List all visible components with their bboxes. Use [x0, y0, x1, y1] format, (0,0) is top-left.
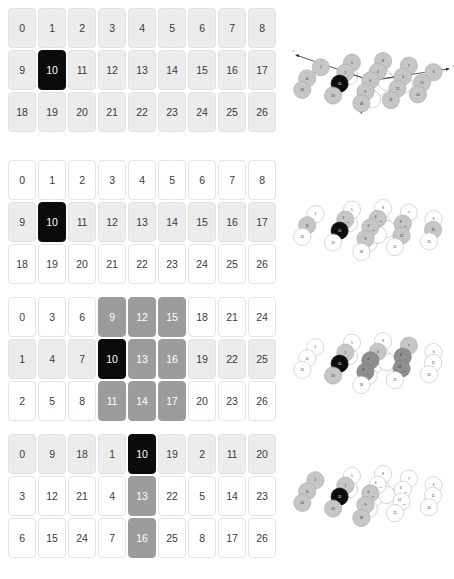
graph-node[interactable]: 24: [420, 366, 437, 383]
grid-cell[interactable]: 17: [158, 381, 186, 421]
grid-cell[interactable]: 24: [248, 297, 276, 337]
grid-cell[interactable]: 24: [188, 92, 216, 132]
graph-node[interactable]: 2: [312, 59, 329, 76]
grid-cell[interactable]: 25: [218, 92, 246, 132]
grid-cell[interactable]: 16: [128, 518, 156, 558]
grid-cell[interactable]: 14: [128, 381, 156, 421]
grid-cell[interactable]: 0: [8, 160, 36, 200]
grid-cell[interactable]: 4: [128, 8, 156, 48]
grid-cell[interactable]: 14: [218, 476, 246, 516]
grid-cell[interactable]: 6: [188, 8, 216, 48]
grid-cell[interactable]: 13: [128, 202, 156, 242]
grid-cell[interactable]: 22: [218, 339, 246, 379]
grid-cell[interactable]: 0: [8, 434, 36, 474]
grid-cell[interactable]: 25: [248, 339, 276, 379]
grid-cell[interactable]: 10: [38, 202, 66, 242]
grid-cell[interactable]: 9: [8, 50, 36, 90]
grid-cell[interactable]: 12: [38, 476, 66, 516]
grid-cell[interactable]: 1: [38, 8, 66, 48]
grid-cell[interactable]: 13: [128, 339, 156, 379]
grid-cell[interactable]: 18: [68, 434, 96, 474]
grid-cell[interactable]: 5: [158, 8, 186, 48]
grid-cell[interactable]: 9: [98, 297, 126, 337]
grid-cell[interactable]: 1: [38, 160, 66, 200]
grid-cell[interactable]: 6: [188, 160, 216, 200]
grid-cell[interactable]: 0: [8, 297, 36, 337]
grid-cell[interactable]: 0: [8, 8, 36, 48]
grid-cell[interactable]: 23: [158, 244, 186, 284]
graph-node[interactable]: 20: [294, 81, 311, 98]
grid-cell[interactable]: 3: [98, 8, 126, 48]
grid-cell[interactable]: 20: [68, 244, 96, 284]
graph-node[interactable]: 19: [324, 367, 341, 384]
grid-cell[interactable]: 2: [188, 434, 216, 474]
grid-cell[interactable]: 4: [128, 160, 156, 200]
graph-node[interactable]: 18: [353, 95, 370, 112]
grid-cell[interactable]: 17: [218, 518, 246, 558]
grid-cell[interactable]: 26: [248, 244, 276, 284]
graph-node[interactable]: 19: [324, 87, 341, 104]
grid-cell[interactable]: 8: [248, 8, 276, 48]
grid-cell[interactable]: 8: [68, 381, 96, 421]
grid-cell[interactable]: 24: [68, 518, 96, 558]
graph-node[interactable]: 18: [353, 509, 370, 526]
grid-cell[interactable]: 23: [218, 381, 246, 421]
grid-cell[interactable]: 20: [248, 434, 276, 474]
grid-cell[interactable]: 5: [158, 160, 186, 200]
grid-cell[interactable]: 19: [188, 339, 216, 379]
graph-node[interactable]: 19: [324, 500, 341, 517]
grid-cell[interactable]: 3: [98, 160, 126, 200]
grid-cell[interactable]: 11: [218, 434, 246, 474]
graph-node[interactable]: 21: [386, 371, 403, 388]
grid-cell[interactable]: 5: [38, 381, 66, 421]
grid-cell[interactable]: 2: [68, 160, 96, 200]
grid-cell[interactable]: 21: [68, 476, 96, 516]
grid-cell[interactable]: 3: [8, 476, 36, 516]
grid-cell[interactable]: 2: [8, 381, 36, 421]
grid-cell[interactable]: 21: [98, 92, 126, 132]
grid-cell[interactable]: 12: [98, 202, 126, 242]
grid-cell[interactable]: 8: [188, 518, 216, 558]
graph-node[interactable]: 20: [294, 361, 311, 378]
grid-cell[interactable]: 16: [158, 339, 186, 379]
graph-node[interactable]: 20: [294, 228, 311, 245]
grid-cell[interactable]: 25: [218, 244, 246, 284]
graph-node[interactable]: 18: [353, 376, 370, 393]
grid-cell[interactable]: 14: [158, 50, 186, 90]
grid-cell[interactable]: 1: [8, 339, 36, 379]
graph-node[interactable]: 24: [420, 499, 437, 516]
grid-cell[interactable]: 10: [128, 434, 156, 474]
grid-cell[interactable]: 22: [158, 476, 186, 516]
graph-node[interactable]: 24: [420, 233, 437, 250]
grid-cell[interactable]: 19: [38, 244, 66, 284]
grid-cell[interactable]: 25: [158, 518, 186, 558]
grid-cell[interactable]: 5: [188, 476, 216, 516]
graph-node[interactable]: 21: [386, 238, 403, 255]
grid-cell[interactable]: 23: [248, 476, 276, 516]
grid-cell[interactable]: 16: [218, 202, 246, 242]
grid-cell[interactable]: 8: [248, 160, 276, 200]
grid-cell[interactable]: 19: [158, 434, 186, 474]
graph-node[interactable]: 21: [382, 91, 399, 108]
grid-cell[interactable]: 18: [8, 244, 36, 284]
grid-cell[interactable]: 18: [8, 92, 36, 132]
grid-cell[interactable]: 7: [218, 8, 246, 48]
grid-cell[interactable]: 26: [248, 518, 276, 558]
grid-cell[interactable]: 2: [68, 8, 96, 48]
grid-cell[interactable]: 21: [218, 297, 246, 337]
grid-cell[interactable]: 15: [188, 202, 216, 242]
graph-node[interactable]: 20: [294, 494, 311, 511]
grid-cell[interactable]: 9: [8, 202, 36, 242]
grid-cell[interactable]: 17: [248, 50, 276, 90]
grid-cell[interactable]: 13: [128, 50, 156, 90]
grid-cell[interactable]: 12: [128, 297, 156, 337]
grid-cell[interactable]: 22: [128, 244, 156, 284]
grid-cell[interactable]: 15: [188, 50, 216, 90]
grid-cell[interactable]: 11: [68, 202, 96, 242]
grid-cell[interactable]: 15: [158, 297, 186, 337]
grid-cell[interactable]: 6: [68, 297, 96, 337]
grid-cell[interactable]: 10: [38, 50, 66, 90]
grid-cell[interactable]: 22: [128, 92, 156, 132]
graph-node[interactable]: 24: [409, 86, 426, 103]
grid-cell[interactable]: 11: [68, 50, 96, 90]
